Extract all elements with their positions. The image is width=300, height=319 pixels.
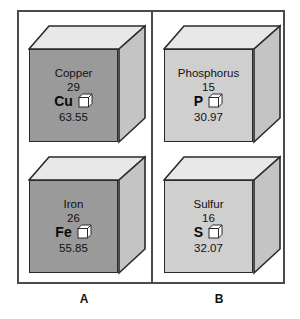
element-symbol: Fe [55, 225, 71, 240]
element-symbol: Cu [54, 94, 73, 109]
cube-front-face-iron: Iron 26 Fe 55.85 [29, 180, 118, 273]
element-atomic-mass: 63.55 [59, 110, 88, 124]
cube-icon [208, 93, 223, 108]
element-cube-phosphorus[interactable]: Phosphorus 15 P 30.97 [163, 24, 281, 144]
cube-front-face-phosphorus: Phosphorus 15 P 30.97 [164, 49, 253, 142]
element-atomic-mass: 30.97 [194, 110, 223, 124]
element-symbol: P [194, 94, 203, 109]
cube-icon [208, 224, 223, 239]
element-cube-sulfur[interactable]: Sulfur 16 S 32.07 [163, 155, 281, 275]
cube-icon [77, 224, 92, 239]
element-cube-copper[interactable]: Copper 29 Cu 63.55 [28, 24, 146, 144]
element-atomic-mass: 55.85 [59, 241, 88, 255]
element-name: Phosphorus [178, 67, 239, 80]
cube-front-face-sulfur: Sulfur 16 S 32.07 [164, 180, 253, 273]
element-name: Copper [55, 67, 93, 80]
cube-front-face-copper: Copper 29 Cu 63.55 [29, 49, 118, 142]
panel-divider [151, 10, 153, 284]
element-name: Iron [64, 198, 84, 211]
figure-root: Copper 29 Cu 63.55 Iron 26 [0, 0, 300, 319]
element-symbol-row: Fe [55, 225, 91, 240]
element-atomic-mass: 32.07 [194, 241, 223, 255]
cube-icon [78, 93, 93, 108]
panel-label-b: B [199, 292, 239, 306]
element-symbol: S [194, 225, 203, 240]
element-name: Sulfur [193, 198, 223, 211]
element-cube-iron[interactable]: Iron 26 Fe 55.85 [28, 155, 146, 275]
panel-label-a: A [64, 292, 104, 306]
element-symbol-row: P [194, 94, 223, 109]
element-symbol-row: S [194, 225, 223, 240]
element-symbol-row: Cu [54, 94, 93, 109]
